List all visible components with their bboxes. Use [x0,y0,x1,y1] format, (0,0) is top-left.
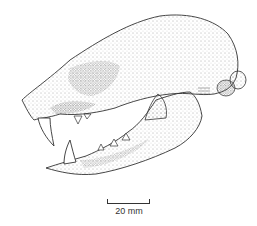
skull-drawing [0,0,257,226]
scale-bar [107,199,150,204]
skull-figure: 20 mm [0,0,257,226]
lower-canine [64,140,76,164]
upper-canine [38,118,54,146]
cranium [22,15,238,120]
scale-bar-label: 20 mm [103,206,155,216]
